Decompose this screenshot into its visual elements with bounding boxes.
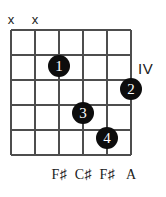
note-label-string-5: F♯ xyxy=(94,167,120,183)
finger-dot-4: 4 xyxy=(96,127,118,149)
guitar-chord-diagram: x x 1 2 3 4 IV F♯ C♯ F♯ A xyxy=(0,0,166,197)
note-label-string-4: C♯ xyxy=(70,167,96,183)
mute-marker-string-2: x xyxy=(28,13,42,26)
finger-dot-2: 2 xyxy=(120,78,142,100)
finger-dot-1: 1 xyxy=(48,55,70,77)
fret-position-label: IV xyxy=(138,61,153,76)
note-label-string-6: A xyxy=(118,167,144,183)
note-label-string-3: F♯ xyxy=(46,167,72,183)
finger-dot-3: 3 xyxy=(72,102,94,124)
mute-marker-string-1: x xyxy=(4,13,18,26)
